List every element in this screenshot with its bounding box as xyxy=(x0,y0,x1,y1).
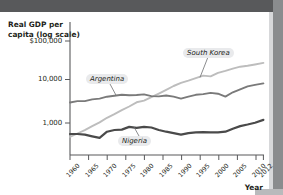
series-label-south-korea: South Korea xyxy=(183,48,234,58)
x-axis-ticks xyxy=(70,155,263,160)
series-line-argentina xyxy=(70,83,263,102)
chart-figure: Real GDP per capita (log scale) $100,000… xyxy=(0,0,283,195)
leader-line-south-korea xyxy=(200,57,208,77)
series-label-argentina: Argentina xyxy=(86,74,128,84)
leader-line-argentina xyxy=(110,84,116,95)
series-label-nigeria: Nigeria xyxy=(118,136,151,146)
x-axis-title: Year xyxy=(245,183,263,192)
y-axis-ticks xyxy=(65,41,70,123)
